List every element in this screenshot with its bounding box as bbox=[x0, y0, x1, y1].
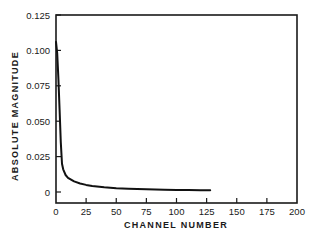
y-tick-label: 0.100 bbox=[26, 45, 50, 56]
x-tick-label: 50 bbox=[111, 206, 122, 217]
x-tick-label: 150 bbox=[229, 206, 245, 217]
x-tick-label: 0 bbox=[53, 206, 58, 217]
x-tick-label: 175 bbox=[259, 206, 275, 217]
x-tick-label: 75 bbox=[141, 206, 152, 217]
data-series bbox=[56, 42, 210, 190]
series-line bbox=[56, 42, 210, 190]
x-tick-label: 125 bbox=[199, 206, 215, 217]
y-tick-label: 0 bbox=[45, 187, 50, 198]
plot-frame bbox=[56, 15, 297, 203]
y-tick-label: 0.125 bbox=[26, 10, 50, 21]
line-chart: 00.0250.0500.0750.1000.125 0255075100125… bbox=[0, 0, 317, 241]
y-tick-label: 0.025 bbox=[26, 151, 50, 162]
x-tick-label: 25 bbox=[81, 206, 92, 217]
y-tick-label: 0.050 bbox=[26, 116, 50, 127]
x-tick-label: 200 bbox=[289, 206, 305, 217]
x-axis-ticks: 0255075100125150175200 bbox=[53, 198, 305, 217]
y-tick-label: 0.075 bbox=[26, 80, 50, 91]
x-tick-label: 100 bbox=[169, 206, 185, 217]
y-axis-title: ABSOLUTE MAGNITUDE bbox=[10, 51, 20, 181]
plot-border bbox=[56, 15, 297, 203]
x-axis-title: CHANNEL NUMBER bbox=[124, 220, 228, 230]
